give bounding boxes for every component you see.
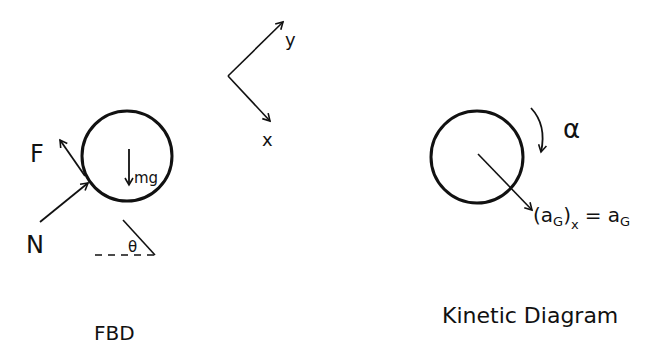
- normal-arrow: [40, 183, 88, 222]
- angle-label: θ: [128, 238, 137, 256]
- friction-label: F: [30, 140, 44, 168]
- kinetic-diagram: α (aG)x= aG Kinetic Diagram: [431, 108, 630, 328]
- free-body-diagram: F N mg θ FBD: [26, 111, 172, 345]
- fbd-body-circle: [82, 111, 172, 201]
- accel-equation: (aG)x= aG: [533, 203, 630, 232]
- normal-label: N: [26, 231, 44, 259]
- x-axis-label: x: [262, 129, 273, 150]
- angular-accel-arrow: [531, 108, 543, 152]
- weight-label: mg: [134, 169, 158, 187]
- kinetic-body-circle: [431, 111, 523, 203]
- kinetic-title: Kinetic Diagram: [442, 303, 618, 328]
- alpha-label: α: [563, 114, 580, 144]
- y-axis-label: y: [285, 29, 296, 50]
- y-axis-arrow: [228, 22, 283, 76]
- fbd-title: FBD: [94, 321, 135, 345]
- x-axis-arrow: [228, 76, 270, 121]
- coordinate-axes: y x: [228, 22, 296, 150]
- diagram-canvas: F N mg θ FBD y x α (aG)x= aG Kinetic Dia…: [0, 0, 670, 347]
